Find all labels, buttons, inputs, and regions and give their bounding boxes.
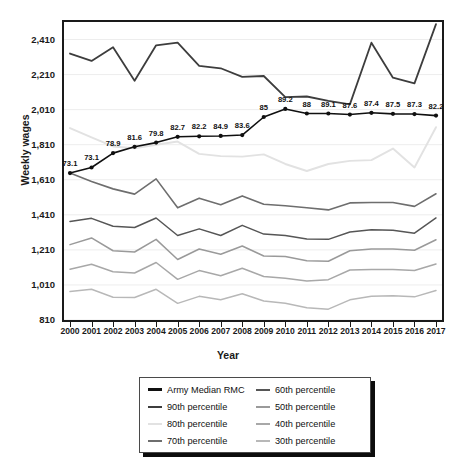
data-point-marker [391, 112, 395, 116]
data-point-label: 82.2 [429, 102, 444, 111]
x-axis-tick-label: 2017 [423, 326, 449, 336]
data-point-label: 83.6 [235, 121, 250, 130]
data-point-label: 87.4 [364, 99, 379, 108]
x-axis-tick-mark [92, 322, 93, 327]
data-point-marker [219, 134, 223, 138]
data-point-marker [89, 165, 93, 169]
x-axis-tick-mark [264, 322, 265, 327]
chart-legend: Army Median RMC60th percentile90th perce… [139, 377, 371, 453]
x-axis-tick-mark [285, 322, 286, 327]
y-axis-tick-label: 2,210 [0, 69, 55, 80]
legend-swatch-icon [256, 440, 270, 442]
data-point-marker [348, 112, 352, 116]
x-axis-tick-mark [135, 322, 136, 327]
legend-label: 90th percentile [167, 402, 227, 412]
legend-label: Army Median RMC [167, 385, 245, 395]
data-point-label: 84.9 [213, 122, 228, 131]
y-axis-tick-label: 1,210 [0, 244, 55, 255]
y-axis-tick-label: 810 [0, 314, 55, 325]
x-axis-tick-mark [70, 322, 71, 327]
data-point-marker [412, 112, 416, 116]
x-axis-tick-mark [307, 322, 308, 327]
data-point-label: 88 [303, 100, 311, 109]
data-point-marker [369, 111, 373, 115]
legend-swatch-icon [148, 406, 162, 408]
data-point-marker [326, 111, 330, 115]
legend-label: 80th percentile [167, 419, 227, 429]
data-point-marker [305, 111, 309, 115]
y-axis-tick-label: 2,410 [0, 34, 55, 45]
x-axis-tick-mark [156, 322, 157, 327]
x-axis-tick-mark [113, 322, 114, 327]
x-axis-title: Year [0, 349, 456, 361]
data-point-label: 82.2 [192, 122, 207, 131]
y-axis-tick-label: 1,810 [0, 139, 55, 150]
series-line [70, 263, 436, 282]
data-point-label: 87.6 [342, 101, 357, 110]
data-point-marker [434, 114, 438, 118]
legend-label: 30th percentile [275, 436, 335, 446]
data-point-label: 73.1 [63, 159, 78, 168]
y-axis-tick-label: 1,010 [0, 279, 55, 290]
series-line [70, 109, 436, 173]
y-axis-tick-label: 1,410 [0, 209, 55, 220]
legend-swatch-icon [148, 440, 162, 442]
series-line [70, 218, 436, 239]
legend-item[interactable]: 30th percentile [256, 432, 364, 449]
legend-swatch-icon [148, 388, 162, 391]
series-line [70, 173, 436, 210]
data-point-marker [68, 171, 72, 175]
data-point-label: 89.1 [321, 100, 336, 109]
legend-item[interactable]: 90th percentile [148, 398, 256, 415]
y-axis-tick-label: 2,010 [0, 104, 55, 115]
legend-item[interactable]: 80th percentile [148, 415, 256, 432]
plot-svg [64, 22, 442, 320]
legend-item[interactable]: Army Median RMC [148, 381, 256, 398]
legend-label: 50th percentile [275, 402, 335, 412]
chart-figure: Weekly wages 8101,0101,2101,4101,6101,81… [0, 0, 456, 462]
x-axis-tick-mark [199, 322, 200, 327]
data-point-label: 82.7 [170, 123, 185, 132]
data-point-marker [176, 135, 180, 139]
data-point-label: 79.8 [149, 129, 164, 138]
data-point-marker [283, 107, 287, 111]
x-axis-tick-mark [221, 322, 222, 327]
legend-swatch-icon [256, 423, 270, 425]
x-axis-tick-mark [178, 322, 179, 327]
x-axis-tick-mark [242, 322, 243, 327]
legend-item[interactable]: 40th percentile [256, 415, 364, 432]
x-axis-tick-mark [414, 322, 415, 327]
data-point-label: 81.6 [127, 133, 142, 142]
data-point-label: 85 [260, 103, 268, 112]
data-point-marker [262, 115, 266, 119]
y-axis-tick-label: 1,610 [0, 174, 55, 185]
data-point-marker [197, 134, 201, 138]
x-axis-tick-mark [393, 322, 394, 327]
data-point-label: 78.9 [106, 139, 121, 148]
legend-label: 60th percentile [275, 385, 335, 395]
legend-label: 70th percentile [167, 436, 227, 446]
legend-item[interactable]: 50th percentile [256, 398, 364, 415]
legend-item[interactable]: 70th percentile [148, 432, 256, 449]
data-point-marker [132, 145, 136, 149]
data-point-label: 87.3 [407, 100, 422, 109]
plot-area [62, 20, 444, 322]
data-point-label: 87.5 [386, 100, 401, 109]
data-point-marker [240, 133, 244, 137]
data-point-label: 89.2 [278, 95, 293, 104]
series-line [70, 24, 436, 104]
legend-swatch-icon [256, 389, 270, 391]
x-axis-tick-mark [436, 322, 437, 327]
x-axis-tick-mark [350, 322, 351, 327]
legend-swatch-icon [256, 406, 270, 408]
series-line [70, 289, 436, 309]
legend-label: 40th percentile [275, 419, 335, 429]
x-axis-tick-mark [371, 322, 372, 327]
data-point-marker [154, 141, 158, 145]
legend-swatch-icon [148, 423, 162, 425]
legend-item[interactable]: 60th percentile [256, 381, 364, 398]
x-axis-tick-mark [328, 322, 329, 327]
data-point-label: 73.1 [84, 153, 99, 162]
data-point-marker [111, 151, 115, 155]
